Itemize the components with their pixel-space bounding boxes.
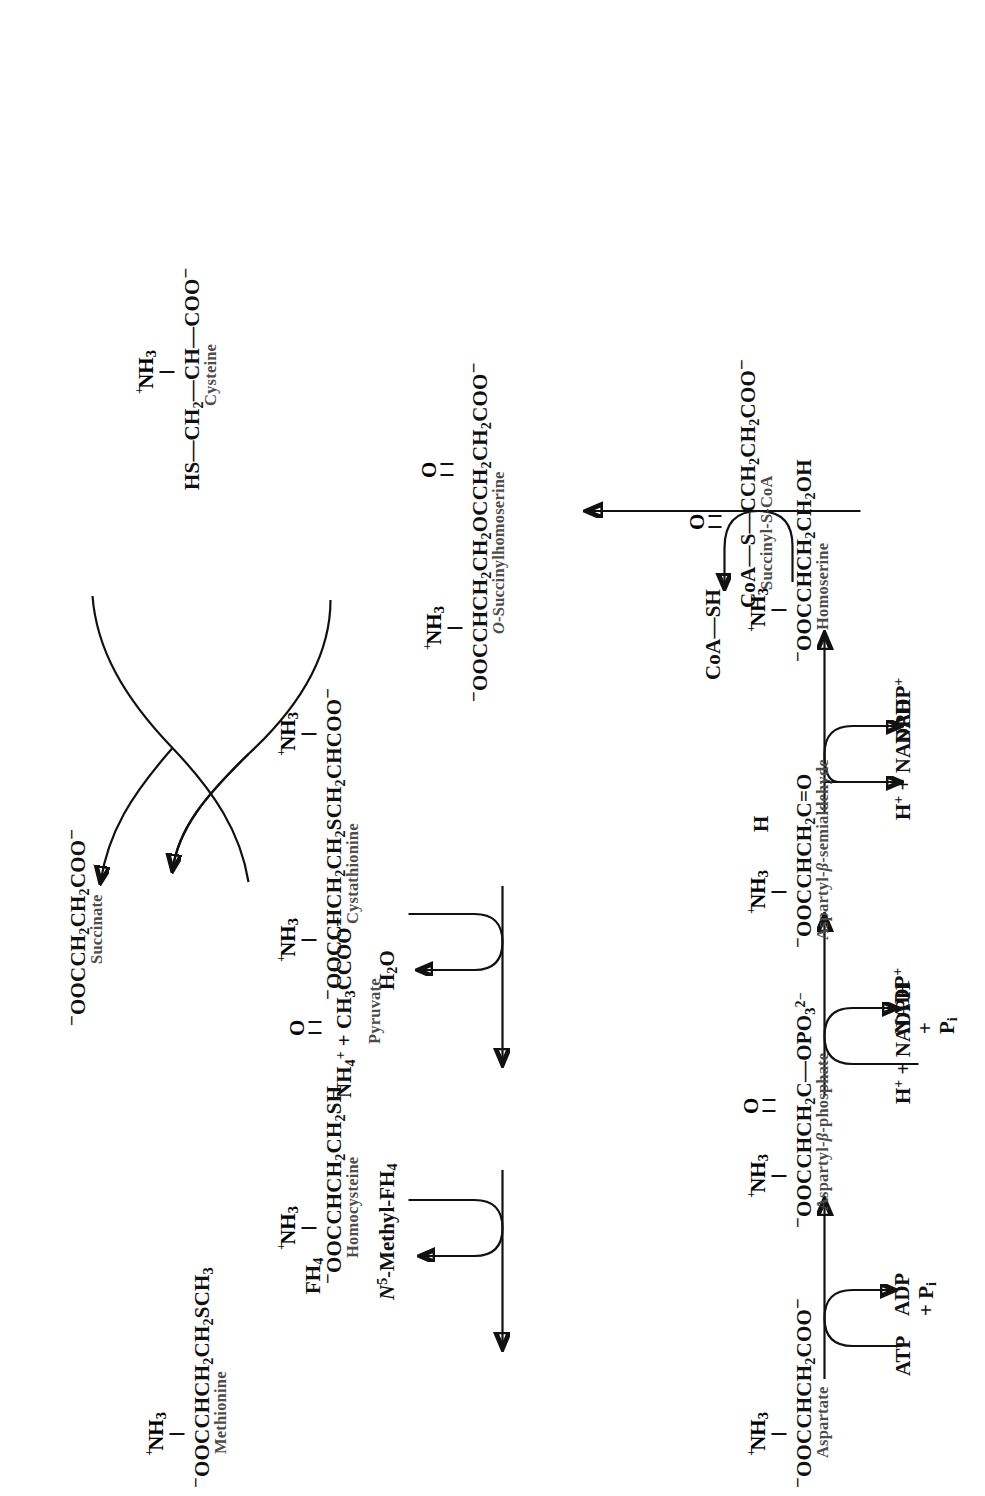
amine-group-homocysteine: +NH3 — [274, 1206, 316, 1250]
hydrogen-label-semialdehyde: H — [748, 815, 773, 832]
curve-nadp-out-2 — [824, 726, 900, 782]
pathway-canvas: +NH3 −OOCCHCH2COO− Aspartate ATP ADP+ Pi… — [0, 0, 985, 1496]
amine-group-cystathionine-1: +NH3 — [274, 918, 316, 962]
carbonyl-group-pyruvate: O — [286, 1020, 321, 1036]
cofactor-nadp-2: NADP+ — [890, 678, 915, 744]
cofactor-fh4: FH4 — [300, 1258, 326, 1294]
amine-group-aspartylphosphate: +NH3 — [744, 1154, 786, 1198]
carbonyl-group-aspartylphosphate: O — [740, 1098, 775, 1114]
formula-coa-sh: CoA—SH — [700, 589, 725, 680]
label-cysteine: Cysteine — [200, 344, 220, 406]
pathway-diagram-page: +NH3 −OOCCHCH2COO− Aspartate ATP ADP+ Pi… — [0, 0, 985, 1496]
curve-cysteine-enters — [92, 596, 248, 882]
cofactor-nadp-pi: NADP++Pi — [890, 968, 960, 1034]
label-succinate: Succinate — [86, 894, 106, 964]
label-aspartylphosphate: Aspartyl-β-phosphate — [812, 1053, 832, 1210]
cofactor-nh4-pyruvate: NH4+ + CH3CCOO− — [326, 917, 358, 1098]
reaction-arrows — [0, 0, 985, 1496]
curve-water-nh4-pyruvate — [408, 914, 502, 970]
amine-group-cystathionine-2: +NH3 — [274, 712, 316, 756]
amine-group-aspartate: +NH3 — [744, 1412, 786, 1456]
carbonyl-group-succinylcoa: O — [686, 514, 721, 530]
label-methionine: Methionine — [210, 1371, 230, 1454]
label-osuccinylhomoserine: O-Succinylhomoserine — [488, 471, 508, 634]
label-homocysteine: Homocysteine — [342, 1157, 362, 1258]
amine-group-osuccinylhomoserine: +NH3 — [420, 606, 462, 650]
label-cystathionine: Cystathionine — [342, 823, 362, 924]
arrow-succinate-out — [100, 748, 172, 882]
cofactor-adp-pi: ADP+ Pi — [890, 1273, 938, 1316]
cofactor-atp: ATP — [890, 1336, 915, 1376]
label-semialdehyde: Aspartyl-β-semialdehyde — [812, 759, 832, 940]
label-pyruvate: Pyruvate — [364, 978, 384, 1044]
curve-x-lower — [172, 754, 248, 870]
amine-group-methionine: +NH3 — [142, 1412, 184, 1456]
label-aspartate: Aspartate — [812, 1387, 832, 1458]
amine-group-semialdehyde: +NH3 — [744, 870, 786, 914]
label-homoserine: Homoserine — [812, 543, 832, 630]
amine-group-cysteine: +NH3 — [132, 350, 174, 394]
oxygen-label: O — [740, 1098, 761, 1114]
curve-methylfh4-fh4 — [408, 1200, 502, 1256]
cofactor-n5-methyl-fh4: N5-Methyl-FH4 — [374, 1163, 400, 1300]
label-succinyl-s-coa: Succinyl-S-CoA — [756, 475, 776, 590]
carbonyl-group-osuccinylhomoserine: O — [418, 462, 453, 478]
